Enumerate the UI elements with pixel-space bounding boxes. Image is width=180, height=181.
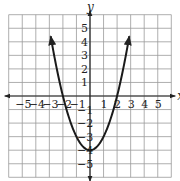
parabola-chart: xy−5−4−3−2−112345−5−4−3−2−112345 xyxy=(0,0,180,181)
y-tick-label: 2 xyxy=(81,63,88,76)
y-tick-label: 3 xyxy=(81,49,88,62)
y-tick-label: −2 xyxy=(77,117,93,130)
x-tick-label: 5 xyxy=(155,98,162,111)
y-tick-label: −5 xyxy=(77,158,93,171)
x-tick-label: 3 xyxy=(128,98,135,111)
x-tick-label: 1 xyxy=(101,98,108,111)
x-axis-label: x xyxy=(177,89,180,103)
y-tick-label: 1 xyxy=(81,76,88,89)
y-axis-label: y xyxy=(86,0,94,14)
y-tick-label: −1 xyxy=(77,104,93,117)
y-tick-label: 5 xyxy=(81,22,88,35)
x-tick-label: 4 xyxy=(141,98,148,111)
y-tick-label: 4 xyxy=(81,36,88,49)
